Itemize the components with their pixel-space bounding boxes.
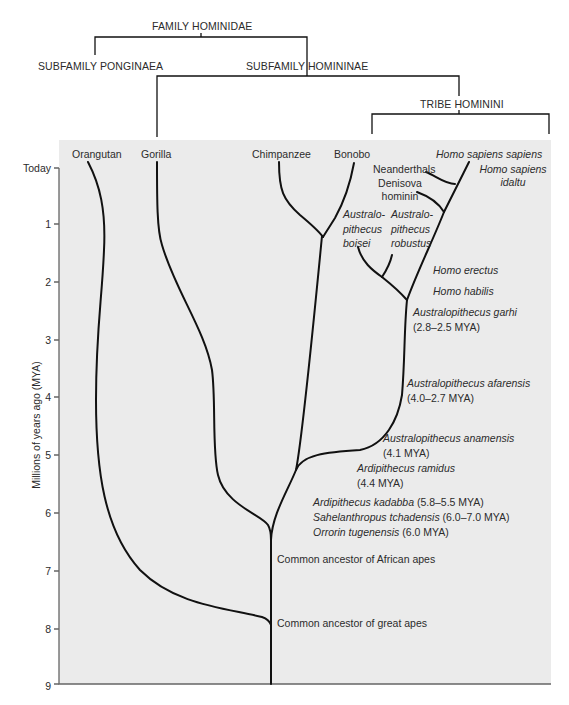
tick-8: 8 — [11, 623, 51, 635]
label-sahelanthropus: Sahelanthropus tchadensis (6.0–7.0 MYA) — [313, 511, 510, 524]
tip-denisova: Denisova hominin — [370, 177, 430, 203]
gorilla-branch — [157, 162, 271, 540]
ramidus-date: (4.4 MYA) — [357, 476, 455, 491]
tip-robustus: Australo- pithecus robustus — [391, 207, 433, 251]
sahelanthropus-date: (6.0–7.0 MYA) — [440, 511, 510, 523]
afarensis-name: Australopithecus afarensis — [407, 376, 530, 391]
tip-robustus-line3: robustus — [391, 236, 433, 251]
tip-boisei-line3: boisei — [343, 236, 385, 251]
tick-3: 3 — [11, 334, 51, 346]
label-orrorin: Orrorin tugenensis (6.0 MYA) — [313, 526, 449, 539]
tip-neanderthals: Neanderthals — [373, 163, 435, 176]
tip-orangutan: Orangutan — [72, 148, 122, 161]
tip-chimpanzee: Chimpanzee — [252, 148, 311, 161]
subfamily-ponginaea-label: SUBFAMILY PONGINAEA — [38, 60, 163, 72]
tick-today: Today — [11, 162, 51, 174]
node-african-apes: Common ancestor of African apes — [277, 553, 435, 566]
tip-robustus-line2: pithecus — [391, 222, 433, 237]
label-homo-erectus: Homo erectus — [433, 264, 498, 277]
orrorin-date: (6.0 MYA) — [399, 526, 448, 538]
tip-boisei-line2: pithecus — [343, 222, 385, 237]
tick-6: 6 — [11, 507, 51, 519]
label-garhi: Australopithecus garhi (2.8–2.5 MYA) — [413, 305, 517, 334]
garhi-date: (2.8–2.5 MYA) — [413, 320, 517, 335]
tip-homo-sapiens-idaltu: Homo sapiens idaltu — [476, 163, 550, 189]
tip-gorilla: Gorilla — [141, 148, 171, 161]
tip-robustus-line1: Australo- — [391, 207, 433, 222]
anamensis-date: (4.1 MYA) — [383, 446, 514, 461]
tick-4: 4 — [11, 391, 51, 403]
boisei-branch — [358, 247, 382, 277]
family-hominidae-label: FAMILY HOMINIDAE — [152, 20, 252, 32]
tip-denisova-line1: Denisova — [370, 177, 430, 190]
afarensis-date: (4.0–2.7 MYA) — [407, 391, 530, 406]
tip-bonobo: Bonobo — [334, 148, 370, 161]
label-ramidus: Ardipithecus ramidus (4.4 MYA) — [357, 461, 455, 490]
subfamily-homininae-label: SUBFAMILY HOMININAE — [246, 60, 368, 72]
tick-1: 1 — [11, 218, 51, 230]
tip-homo-sapiens-sapiens: Homo sapiens sapiens — [436, 148, 542, 161]
label-afarensis: Australopithecus afarensis (4.0–2.7 MYA) — [407, 376, 530, 405]
phylogeny-diagram: FAMILY HOMINIDAE SUBFAMILY PONGINAEA SUB… — [0, 0, 569, 705]
tick-9: 9 — [11, 680, 51, 692]
node-great-apes: Common ancestor of great apes — [277, 617, 427, 630]
tip-boisei-line1: Australo- — [343, 207, 385, 222]
robust-lineage — [382, 277, 407, 300]
chimpanzee-branch — [279, 162, 323, 237]
tip-idaltu-line2: idaltu — [476, 176, 550, 189]
tip-idaltu-line1: Homo sapiens — [476, 163, 550, 176]
tick-7: 7 — [11, 565, 51, 577]
tribe-hominini-label: TRIBE HOMININI — [420, 98, 504, 110]
orangutan-branch — [88, 162, 271, 625]
kadabba-date: (5.8–5.5 MYA) — [414, 496, 484, 508]
label-kadabba: Ardipithecus kadabba (5.8–5.5 MYA) — [313, 496, 484, 509]
garhi-name: Australopithecus garhi — [413, 305, 517, 320]
y-axis-label: Millions of years ago (MYA) — [30, 361, 42, 489]
orrorin-name: Orrorin tugenensis — [313, 526, 399, 538]
tip-denisova-line2: hominin — [370, 190, 430, 203]
label-homo-habilis: Homo habilis — [433, 285, 494, 298]
tip-boisei: Australo- pithecus boisei — [343, 207, 385, 251]
robustus-branch — [382, 255, 392, 277]
tick-5: 5 — [11, 449, 51, 461]
taxonomy-brackets — [95, 33, 549, 137]
tick-2: 2 — [11, 276, 51, 288]
sahelanthropus-name: Sahelanthropus tchadensis — [313, 511, 440, 523]
label-anamensis: Australopithecus anamensis (4.1 MYA) — [383, 431, 514, 460]
kadabba-name: Ardipithecus kadabba — [313, 496, 414, 508]
hominine-trunk — [271, 236, 322, 540]
anamensis-name: Australopithecus anamensis — [383, 431, 514, 446]
ramidus-name: Ardipithecus ramidus — [357, 461, 455, 476]
